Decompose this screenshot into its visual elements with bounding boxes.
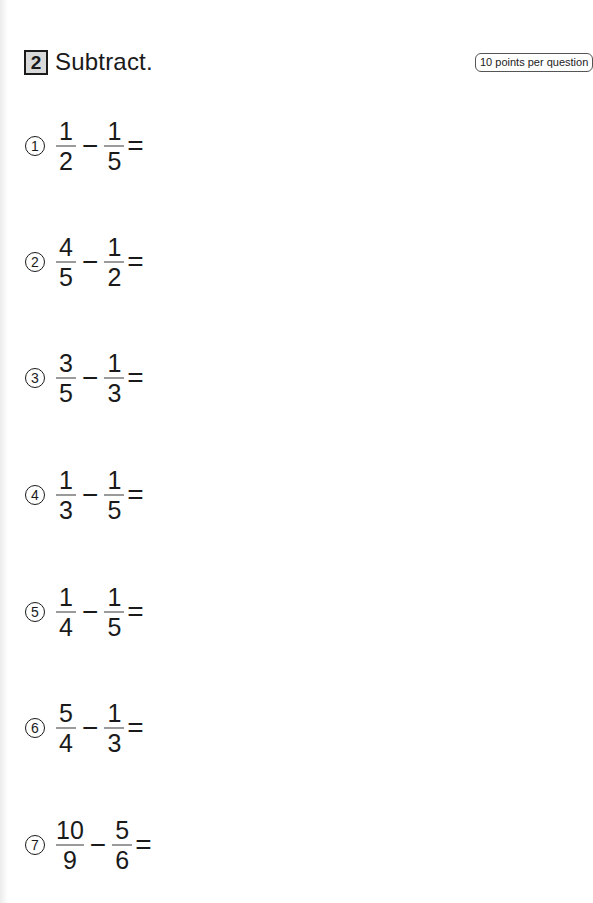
- fraction-b: 1 3: [103, 700, 125, 756]
- denominator: 5: [59, 264, 73, 290]
- numerator: 1: [107, 234, 121, 260]
- problem-number-circle: 5: [25, 602, 45, 622]
- denominator: 3: [59, 497, 73, 523]
- denominator: 4: [59, 614, 73, 640]
- equals-sign: =: [127, 598, 143, 626]
- fraction-a: 10 9: [55, 817, 85, 873]
- denominator: 4: [59, 730, 73, 756]
- equals-sign: =: [127, 714, 143, 742]
- numerator: 1: [107, 118, 121, 144]
- numerator: 5: [115, 817, 129, 843]
- problem-4: 4 1 3 − 1 5 =: [25, 465, 144, 525]
- numerator: 1: [59, 467, 73, 493]
- numerator: 10: [56, 817, 84, 843]
- minus-sign: −: [82, 598, 98, 626]
- problem-number-circle: 2: [25, 252, 45, 272]
- equals-sign: =: [127, 132, 143, 160]
- denominator: 3: [107, 730, 121, 756]
- denominator: 9: [63, 847, 77, 873]
- problem-number-circle: 3: [25, 368, 45, 388]
- denominator: 3: [107, 380, 121, 406]
- problem-5: 5 1 4 − 1 5 =: [25, 582, 144, 642]
- denominator: 2: [107, 264, 121, 290]
- problem-1: 1 1 2 − 1 5 =: [25, 116, 144, 176]
- numerator: 3: [59, 350, 73, 376]
- numerator: 1: [59, 118, 73, 144]
- problem-7: 7 10 9 − 5 6 =: [25, 815, 152, 875]
- equals-sign: =: [127, 481, 143, 509]
- equals-sign: =: [135, 831, 151, 859]
- fraction-b: 1 5: [103, 584, 125, 640]
- problem-number-circle: 4: [25, 485, 45, 505]
- fraction-a: 1 2: [55, 118, 77, 174]
- section-title: Subtract.: [55, 48, 153, 76]
- fraction-b: 1 5: [103, 118, 125, 174]
- denominator: 5: [107, 614, 121, 640]
- denominator: 5: [107, 148, 121, 174]
- fraction-b: 1 3: [103, 350, 125, 406]
- fraction-a: 5 4: [55, 700, 77, 756]
- minus-sign: −: [82, 248, 98, 276]
- problem-6: 6 5 4 − 1 3 =: [25, 698, 144, 758]
- fraction-a: 1 3: [55, 467, 77, 523]
- denominator: 2: [59, 148, 73, 174]
- fraction-b: 5 6: [111, 817, 133, 873]
- points-badge: 10 points per question: [475, 53, 593, 72]
- problem-number-circle: 1: [25, 136, 45, 156]
- minus-sign: −: [82, 481, 98, 509]
- numerator: 1: [107, 584, 121, 610]
- problem-number-circle: 6: [25, 718, 45, 738]
- minus-sign: −: [82, 714, 98, 742]
- minus-sign: −: [82, 132, 98, 160]
- denominator: 6: [115, 847, 129, 873]
- fraction-a: 4 5: [55, 234, 77, 290]
- equals-sign: =: [127, 248, 143, 276]
- fraction-a: 1 4: [55, 584, 77, 640]
- problem-number-circle: 7: [25, 835, 45, 855]
- section-number-box: 2: [24, 50, 48, 75]
- problem-3: 3 3 5 − 1 3 =: [25, 348, 144, 408]
- numerator: 1: [107, 467, 121, 493]
- numerator: 5: [59, 700, 73, 726]
- denominator: 5: [107, 497, 121, 523]
- fraction-b: 1 2: [103, 234, 125, 290]
- numerator: 1: [107, 700, 121, 726]
- page-edge-shadow: [0, 0, 8, 903]
- numerator: 1: [107, 350, 121, 376]
- minus-sign: −: [82, 364, 98, 392]
- problem-2: 2 4 5 − 1 2 =: [25, 232, 144, 292]
- minus-sign: −: [90, 831, 106, 859]
- equals-sign: =: [127, 364, 143, 392]
- section-header: 2 Subtract.: [24, 48, 153, 76]
- fraction-a: 3 5: [55, 350, 77, 406]
- numerator: 1: [59, 584, 73, 610]
- numerator: 4: [59, 234, 73, 260]
- denominator: 5: [59, 380, 73, 406]
- fraction-b: 1 5: [103, 467, 125, 523]
